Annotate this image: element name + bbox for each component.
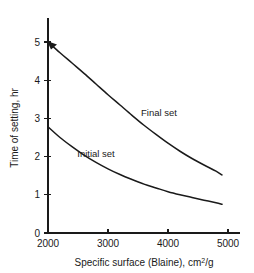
- x-tick-label: 3000: [97, 238, 120, 249]
- x-tick-label: 4000: [157, 238, 180, 249]
- y-tick-label: 2: [34, 151, 40, 162]
- y-tick-label: 3: [34, 113, 40, 124]
- y-axis-title: Time of setting, hr: [9, 88, 20, 168]
- x-axis-title: Specific surface (Blaine), cm2/g: [75, 257, 214, 268]
- x-tick-label: 2000: [37, 238, 60, 249]
- x-axis-ticks: 2000300040005000: [37, 229, 240, 249]
- x-tick-label: 5000: [217, 238, 240, 249]
- series-label-initial-set: Initial set: [77, 148, 115, 159]
- x-axis-title-tail: /g: [205, 257, 213, 268]
- y-tick-label: 1: [34, 189, 40, 200]
- series-label-final-set: Final set: [141, 107, 177, 118]
- x-axis-title-main: Specific surface (Blaine), cm: [75, 257, 202, 268]
- y-tick-label: 5: [34, 37, 40, 48]
- series-line-final-set: [48, 42, 222, 175]
- setting-time-vs-specific-surface-chart: 012345 2000300040005000 Final set Initia…: [0, 0, 254, 273]
- y-tick-label: 4: [34, 75, 40, 86]
- chart-figure: 012345 2000300040005000 Final set Initia…: [0, 0, 254, 273]
- series-line-initial-set: [48, 127, 222, 205]
- y-tick-label: 0: [34, 228, 40, 239]
